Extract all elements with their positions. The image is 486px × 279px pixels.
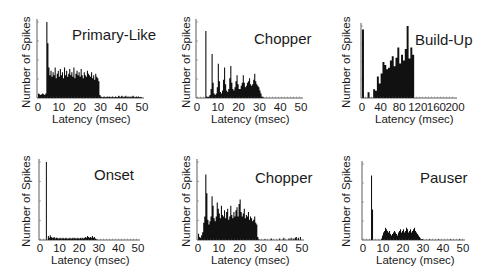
panel-pauser: Number of Spikes Pauser Latency (msec) 0… (320, 140, 486, 279)
chart-title: Build-Up (415, 31, 473, 48)
y-axis-label: Number of Spikes (20, 17, 32, 108)
x-tick-label: 30 (417, 242, 430, 254)
x-tick-label: 50 (136, 101, 149, 113)
x-tick-label: 40 (274, 101, 287, 113)
histogram-bars (362, 26, 414, 98)
x-tick-label: 20 (397, 242, 410, 254)
x-tick-label: 80 (393, 101, 406, 113)
y-axis-label: Number of Spikes (340, 156, 352, 247)
x-tick-label: 10 (377, 242, 390, 254)
x-tick-label: 40 (112, 242, 125, 254)
x-tick-label: 200 (445, 101, 464, 113)
x-tick-label: 40 (437, 242, 450, 254)
x-tick-label: 0 (360, 242, 366, 254)
x-axis-label: Latency (msec) (211, 254, 290, 266)
x-tick-label: 30 (254, 242, 267, 254)
x-tick-label: 120 (408, 101, 427, 113)
chart-title: Primary-Like (72, 26, 156, 43)
chart-title: Onset (94, 166, 134, 183)
x-tick-label: 10 (211, 101, 224, 113)
x-tick-label: 50 (295, 101, 308, 113)
x-tick-label: 50 (457, 242, 470, 254)
panel-onset: Number of Spikes Onset Latency (msec) 01… (0, 140, 162, 279)
x-tick-label: 50 (296, 242, 309, 254)
x-tick-label: 20 (233, 242, 246, 254)
y-axis-label: Number of Spikes (180, 17, 192, 108)
y-axis-label: Number of Spikes (340, 17, 352, 108)
panel-chopper-top: Number of Spikes Chopper Latency (msec) … (160, 0, 322, 140)
panel-build-up: Number of Spikes Build-Up Latency (msec)… (320, 0, 486, 140)
x-axis-label: Latency (msec) (51, 254, 130, 266)
panel-primary-like: Number of Spikes Primary-Like Latency (m… (0, 0, 162, 140)
chart-title: Pauser (420, 169, 468, 186)
x-axis-label: Latency (msec) (376, 254, 455, 266)
x-tick-label: 40 (115, 101, 128, 113)
chart-title: Chopper (255, 169, 313, 186)
x-tick-label: 30 (94, 101, 107, 113)
x-tick-label: 20 (73, 242, 86, 254)
x-tick-label: 10 (53, 242, 66, 254)
x-tick-label: 30 (253, 101, 266, 113)
x-axis-label: Latency (msec) (375, 113, 454, 125)
x-axis-label: Latency (msec) (211, 113, 290, 125)
x-axis-label: Latency (msec) (52, 113, 131, 125)
y-axis-label: Number of Spikes (180, 156, 192, 247)
x-tick-label: 0 (35, 101, 41, 113)
x-tick-label: 0 (194, 101, 200, 113)
x-tick-label: 0 (195, 242, 201, 254)
chart-title: Chopper (254, 30, 312, 47)
x-tick-label: 10 (212, 242, 225, 254)
x-tick-label: 20 (232, 101, 245, 113)
x-tick-label: 40 (374, 101, 387, 113)
x-tick-label: 0 (37, 242, 43, 254)
x-tick-label: 10 (52, 101, 65, 113)
histogram-bars (46, 162, 97, 240)
x-tick-label: 50 (132, 242, 145, 254)
x-tick-label: 160 (427, 101, 446, 113)
x-tick-label: 0 (359, 101, 365, 113)
x-tick-label: 30 (92, 242, 105, 254)
panel-chopper-bottom: Number of Spikes Chopper Latency (msec) … (160, 140, 322, 279)
y-axis-label: Number of Spikes (20, 156, 32, 247)
x-tick-label: 40 (275, 242, 288, 254)
x-tick-label: 20 (73, 101, 86, 113)
